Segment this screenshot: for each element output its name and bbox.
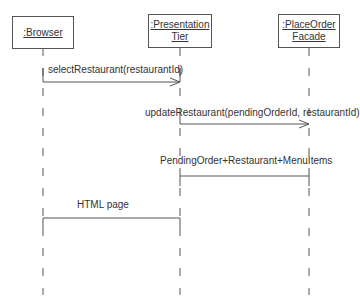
message-label-html-page: HTML page bbox=[77, 199, 129, 211]
participant-placeorder-facade: :PlaceOrder Facade bbox=[278, 14, 340, 48]
participant-presentation-tier: :Presentation Tier bbox=[148, 14, 212, 48]
participant-label-line1: :PlaceOrder bbox=[282, 19, 335, 31]
message-label-pending-order: PendingOrder+Restaurant+MenuItems bbox=[160, 155, 332, 167]
participant-label-line2: Facade bbox=[292, 31, 325, 43]
participant-browser: :Browser bbox=[12, 16, 74, 49]
message-label-update-restaurant: updateRestaurant(pendingOrderId, restaur… bbox=[145, 107, 360, 119]
return-line-html-page bbox=[43, 218, 180, 228]
return-line-pending-order bbox=[180, 176, 309, 186]
participant-label: :Browser bbox=[23, 27, 62, 39]
participant-label-line2: Tier bbox=[172, 31, 189, 43]
message-label-select-restaurant: selectRestaurant(restaurantId) bbox=[48, 64, 183, 76]
participant-label-line1: :Presentation bbox=[151, 19, 210, 31]
